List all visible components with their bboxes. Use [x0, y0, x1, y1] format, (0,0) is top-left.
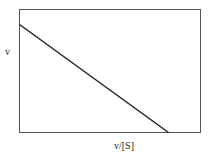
- data-line: [20, 25, 169, 133]
- chart-plot: [0, 0, 208, 159]
- y-axis-label: v: [5, 46, 10, 57]
- x-axis-label: v/[S]: [114, 140, 134, 151]
- plot-frame: [20, 10, 201, 133]
